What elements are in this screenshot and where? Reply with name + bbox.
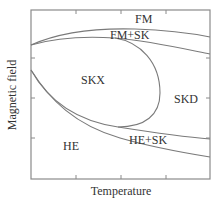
region-label-skd: SKD bbox=[174, 93, 198, 105]
y-axis-label: Magnetic field bbox=[5, 60, 19, 130]
region-label-fm-sk: FM+SK bbox=[110, 29, 149, 41]
region-label-skx: SKX bbox=[81, 74, 105, 86]
region-label-fm: FM bbox=[135, 13, 152, 25]
region-label-he-sk: HE+SK bbox=[129, 134, 167, 146]
x-axis-label: Temperature bbox=[0, 184, 224, 198]
region-label-he: HE bbox=[63, 140, 79, 152]
boundary-he-hesk bbox=[31, 70, 210, 157]
boundary-skx-dome bbox=[115, 38, 160, 127]
